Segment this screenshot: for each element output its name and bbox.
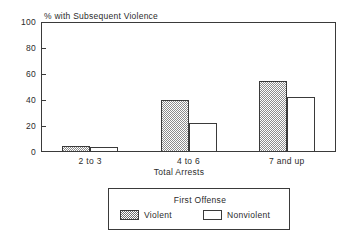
legend-item-label: Nonviolent (227, 210, 270, 220)
y-axis-tick-label: 80 (26, 43, 36, 53)
y-axis-tick-mark (41, 48, 46, 49)
y-axis-tick-label: 20 (26, 121, 36, 131)
y-axis-tick-label: 0 (31, 147, 36, 157)
legend-item-label: Violent (144, 210, 172, 220)
hatched-swatch-icon (120, 210, 139, 220)
x-axis-tick-label: 7 and up (269, 156, 305, 166)
bar-nonviolent-1 (189, 123, 217, 152)
bar-chart-figure: % with Subsequent Violence 020406080100 … (0, 0, 358, 240)
x-axis-title: Total Arrests (0, 167, 358, 177)
legend: First Offense Violent Nonviolent (108, 188, 290, 230)
y-axis-tick-label: 100 (21, 17, 36, 27)
bar-violent-0 (62, 146, 90, 153)
y-axis-tick-mark (41, 100, 46, 101)
legend-item-nonviolent[interactable]: Nonviolent (203, 210, 270, 220)
bar-nonviolent-2 (287, 97, 315, 152)
x-axis-tick-label: 2 to 3 (79, 156, 102, 166)
y-axis-tick-labels: 020406080100 (0, 22, 36, 152)
y-axis-tick-label: 40 (26, 95, 36, 105)
bar-violent-1 (161, 100, 189, 152)
y-axis-title: % with Subsequent Violence (44, 11, 158, 21)
y-axis-tick-mark (41, 74, 46, 75)
white-swatch-icon (203, 210, 222, 220)
bar-nonviolent-0 (90, 147, 118, 152)
legend-title: First Offense (109, 195, 291, 205)
y-axis-tick-mark (41, 126, 46, 127)
y-axis-tick-label: 60 (26, 69, 36, 79)
legend-item-violent[interactable]: Violent (120, 210, 172, 220)
bar-violent-2 (259, 81, 287, 153)
x-axis-tick-label: 4 to 6 (177, 156, 200, 166)
plot-area (41, 22, 336, 152)
